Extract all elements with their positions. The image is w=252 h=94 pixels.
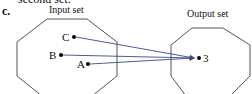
label-b: B	[49, 49, 56, 61]
part-label: c.	[2, 4, 10, 18]
output-set-octagon	[171, 28, 250, 94]
label-a: A	[77, 58, 85, 70]
function-mapping-diagram: second set. c. Input set Output set C B …	[0, 0, 252, 94]
output-set-title: Output set	[187, 8, 229, 19]
point-a	[86, 62, 90, 66]
point-b	[59, 53, 63, 57]
point-c	[72, 35, 76, 39]
label-c: C	[62, 31, 69, 43]
label-3: 3	[203, 52, 209, 64]
arrow-a-to-3	[90, 58, 194, 64]
point-3	[197, 56, 201, 60]
input-set-title: Input set	[49, 4, 84, 15]
